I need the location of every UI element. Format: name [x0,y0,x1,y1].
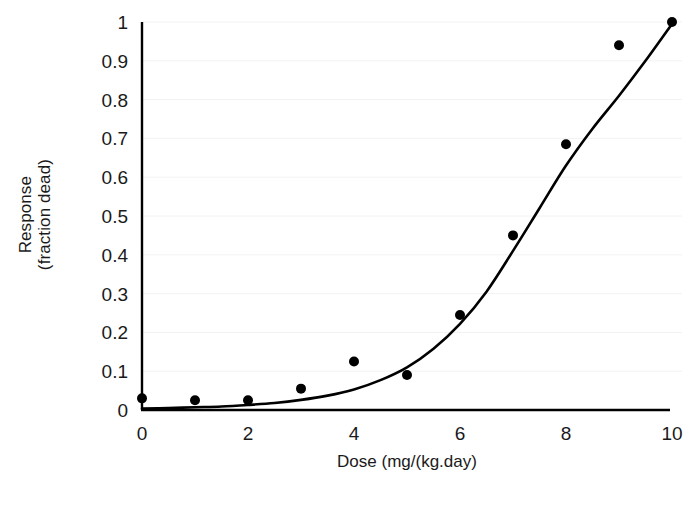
data-point-marker [455,310,465,320]
data-point-marker [508,230,518,240]
data-point-markers [137,17,677,405]
x-axis-title: Dose (mg/(kg.day) [142,452,672,472]
data-point-marker [137,393,147,403]
data-point-marker [190,395,200,405]
data-point-marker [402,370,412,380]
plot-area [0,0,699,508]
data-point-marker [243,395,253,405]
data-point-marker [614,40,624,50]
data-point-marker [667,17,677,27]
data-point-marker [561,139,571,149]
data-point-marker [296,384,306,394]
data-point-marker [349,357,359,367]
dose-response-chart: Response (fraction dead) 00.10.20.30.40.… [0,0,699,508]
gridlines [142,22,682,371]
